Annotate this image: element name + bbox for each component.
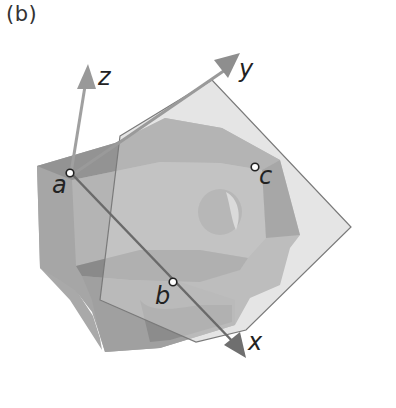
point-b-marker [169, 278, 177, 286]
point-a-marker [66, 169, 74, 177]
point-a-label: a [52, 171, 67, 199]
x-axis-label: x [247, 328, 263, 356]
z-axis-arrowhead [77, 64, 96, 89]
plane [100, 80, 351, 342]
z-axis-label: z [97, 63, 112, 91]
y-axis-label: y [238, 55, 254, 83]
point-b-label: b [155, 282, 170, 310]
point-c-label: c [259, 162, 272, 190]
diagram-canvas: a b c z y x [0, 0, 396, 408]
point-c-marker [251, 163, 259, 171]
